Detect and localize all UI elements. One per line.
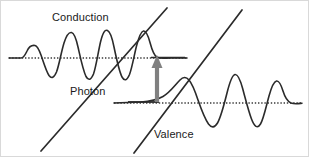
- valence-band-label: Valence: [154, 128, 194, 140]
- conduction-band-label: Conduction: [52, 11, 109, 23]
- conduction-band-wavefunction-curve: [9, 30, 187, 80]
- band-edge-left-line: [41, 8, 167, 151]
- photon-absorption-arrow: [152, 55, 163, 102]
- photon-label: Photon: [70, 85, 105, 97]
- valence-band-wavefunction-curve: [114, 74, 302, 126]
- band-diagram-figure: Conduction Photon Valence: [0, 0, 309, 157]
